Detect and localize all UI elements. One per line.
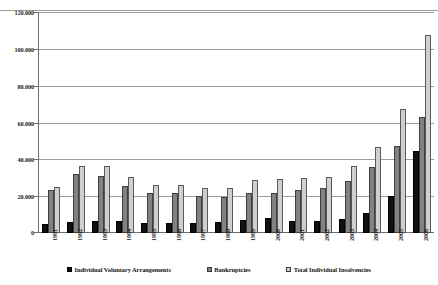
insolvency-bar-chart: 120.000 100.000 80.000 60.000 40.000 20.… <box>0 0 438 285</box>
bar <box>202 188 208 233</box>
chart-top-border <box>0 10 438 11</box>
x-axis-label: 1994 <box>125 229 132 241</box>
x-axis-tick: 1999 <box>237 234 262 260</box>
bar-group <box>385 12 410 233</box>
legend-item: Total Individual Insolvencies <box>286 266 371 273</box>
bar-group <box>88 12 113 233</box>
bar-group <box>286 12 311 233</box>
y-axis-label-4: 40.000 <box>0 156 34 163</box>
bar-group <box>138 12 163 233</box>
x-axis-label: 1991 <box>51 229 58 241</box>
bar-group <box>311 12 336 233</box>
bar <box>54 187 60 233</box>
x-axis-tick: 1995 <box>138 234 163 260</box>
y-axis-label-6: 0 <box>0 229 34 236</box>
bar-group <box>212 12 237 233</box>
bar <box>227 188 233 233</box>
x-axis-label: 2000 <box>274 229 281 241</box>
bar-group <box>113 12 138 233</box>
bar <box>178 185 184 233</box>
y-axis-label-5: 20.000 <box>0 193 34 200</box>
bar-group <box>187 12 212 233</box>
bar-group <box>360 12 385 233</box>
bar <box>277 179 283 233</box>
legend-item: Individual Voluntary Arrangements <box>67 266 171 273</box>
x-axis-label: 1992 <box>76 229 83 241</box>
y-axis-label-1: 100.000 <box>0 46 34 53</box>
x-axis-tick: 2006 <box>409 234 434 260</box>
x-axis-label: 2002 <box>323 229 330 241</box>
legend-label: Total Individual Insolvencies <box>294 266 371 273</box>
x-axis-tick: 2005 <box>385 234 410 260</box>
bar-group <box>335 12 360 233</box>
x-axis-tick: 1998 <box>212 234 237 260</box>
legend-label: Bankruptcies <box>214 266 250 273</box>
x-axis-label: 2004 <box>372 229 379 241</box>
x-axis-label: 2006 <box>422 229 429 241</box>
bar-group <box>162 12 187 233</box>
x-axis-tick: 2002 <box>311 234 336 260</box>
bar <box>375 147 381 233</box>
x-axis-label: 1997 <box>199 229 206 241</box>
x-axis-label: 1996 <box>175 229 182 241</box>
x-axis-tick: 1993 <box>88 234 113 260</box>
bar-group <box>237 12 262 233</box>
bar-group <box>409 12 434 233</box>
x-axis-tick: 1994 <box>113 234 138 260</box>
x-axis-tick: 1992 <box>64 234 89 260</box>
y-axis-label-0: 120.000 <box>0 9 34 16</box>
x-axis-label: 1993 <box>101 229 108 241</box>
bar-group <box>261 12 286 233</box>
legend-swatch-icon <box>286 267 291 272</box>
bar <box>128 177 134 233</box>
x-axis-tick: 2003 <box>335 234 360 260</box>
x-axis-label: 1995 <box>150 229 157 241</box>
bar-group <box>64 12 89 233</box>
x-axis-tick: 1991 <box>39 234 64 260</box>
x-axis-tick: 2001 <box>286 234 311 260</box>
x-axis-label: 2003 <box>348 229 355 241</box>
x-axis-tick: 2004 <box>360 234 385 260</box>
x-axis-label: 1998 <box>224 229 231 241</box>
bar <box>301 178 307 233</box>
bar-group <box>39 12 64 233</box>
bar <box>252 180 258 233</box>
legend-item: Bankruptcies <box>207 266 250 273</box>
bar <box>351 166 357 233</box>
y-axis-label-2: 80.000 <box>0 83 34 90</box>
x-axis-label: 2001 <box>298 229 305 241</box>
x-axis-tick: 2000 <box>261 234 286 260</box>
legend-swatch-icon <box>207 267 212 272</box>
bar <box>153 185 159 233</box>
y-axis-label-3: 60.000 <box>0 120 34 127</box>
legend-label: Individual Voluntary Arrangements <box>75 266 171 273</box>
x-axis-label: 1999 <box>249 229 256 241</box>
x-axis-label: 2005 <box>397 229 404 241</box>
bar <box>326 177 332 233</box>
x-axis-tick: 1996 <box>162 234 187 260</box>
x-axis-labels: 1991199219931994199519961997199819992000… <box>39 234 434 260</box>
bar-groups <box>39 12 434 233</box>
x-axis-tick: 1997 <box>187 234 212 260</box>
legend-swatch-icon <box>67 267 72 272</box>
bar <box>79 166 85 233</box>
bar <box>104 166 110 233</box>
chart-legend: Individual Voluntary ArrangementsBankrup… <box>0 266 438 273</box>
bar <box>425 35 431 233</box>
bar <box>400 109 406 233</box>
